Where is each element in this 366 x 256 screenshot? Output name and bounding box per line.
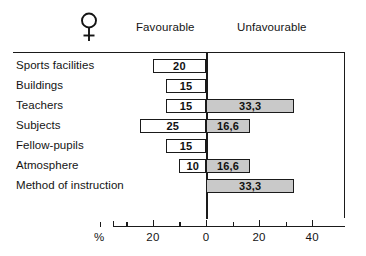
favourable-bar: 20 <box>153 59 206 73</box>
x-axis-line <box>113 226 345 227</box>
x-axis-unit-label: % <box>84 231 114 243</box>
x-tick-label: 20 <box>138 231 168 243</box>
row-category-label: Subjects <box>16 119 61 131</box>
chart-row: Fellow-pupils15 <box>0 136 366 156</box>
legend-favourable-label: Favourable <box>136 21 195 33</box>
row-category-label: Fellow-pupils <box>16 139 84 151</box>
row-category-label: Method of instruction <box>16 179 124 191</box>
x-tick-label: 0 <box>191 231 221 243</box>
chart-row: Method of instruction33,3 <box>0 176 366 196</box>
row-category-label: Atmosphere <box>16 159 79 171</box>
survey-diverging-bar-chart: Favourable Unfavourable Sports facilitie… <box>0 0 366 256</box>
chart-row: Teachers1533,3 <box>0 96 366 116</box>
x-tick-minor <box>179 222 180 227</box>
x-tick-major <box>259 220 260 227</box>
favourable-bar: 15 <box>166 79 206 93</box>
chart-row: Subjects2516,6 <box>0 116 366 136</box>
row-category-label: Sports facilities <box>16 59 94 71</box>
chart-row: Buildings15 <box>0 76 366 96</box>
unfavourable-bar: 16,6 <box>206 159 250 173</box>
row-category-label: Buildings <box>16 79 63 91</box>
chart-row: Atmosphere1016,6 <box>0 156 366 176</box>
favourable-bar: 10 <box>179 159 206 173</box>
x-tick-minor <box>286 222 287 227</box>
favourable-bar: 15 <box>166 139 206 153</box>
row-category-label: Teachers <box>16 99 63 111</box>
x-tick-minor <box>233 222 234 227</box>
x-tick-minor <box>126 222 127 227</box>
unfavourable-bar: 16,6 <box>206 119 250 133</box>
favourable-bar: 25 <box>140 119 206 133</box>
unfavourable-bar: 33,3 <box>206 179 294 193</box>
x-tick-major <box>206 220 207 227</box>
favourable-bar: 15 <box>166 99 206 113</box>
female-symbol-icon <box>78 11 100 43</box>
chart-row: Sports facilities20 <box>0 56 366 76</box>
unfavourable-bar: 33,3 <box>206 99 294 113</box>
x-tick-label: 40 <box>297 231 327 243</box>
x-axis-tick-end <box>113 221 114 227</box>
x-tick-major <box>312 220 313 227</box>
x-tick-minor <box>100 222 101 227</box>
x-tick-major <box>153 220 154 227</box>
legend-unfavourable-label: Unfavourable <box>237 21 307 33</box>
x-tick-label: 20 <box>244 231 274 243</box>
